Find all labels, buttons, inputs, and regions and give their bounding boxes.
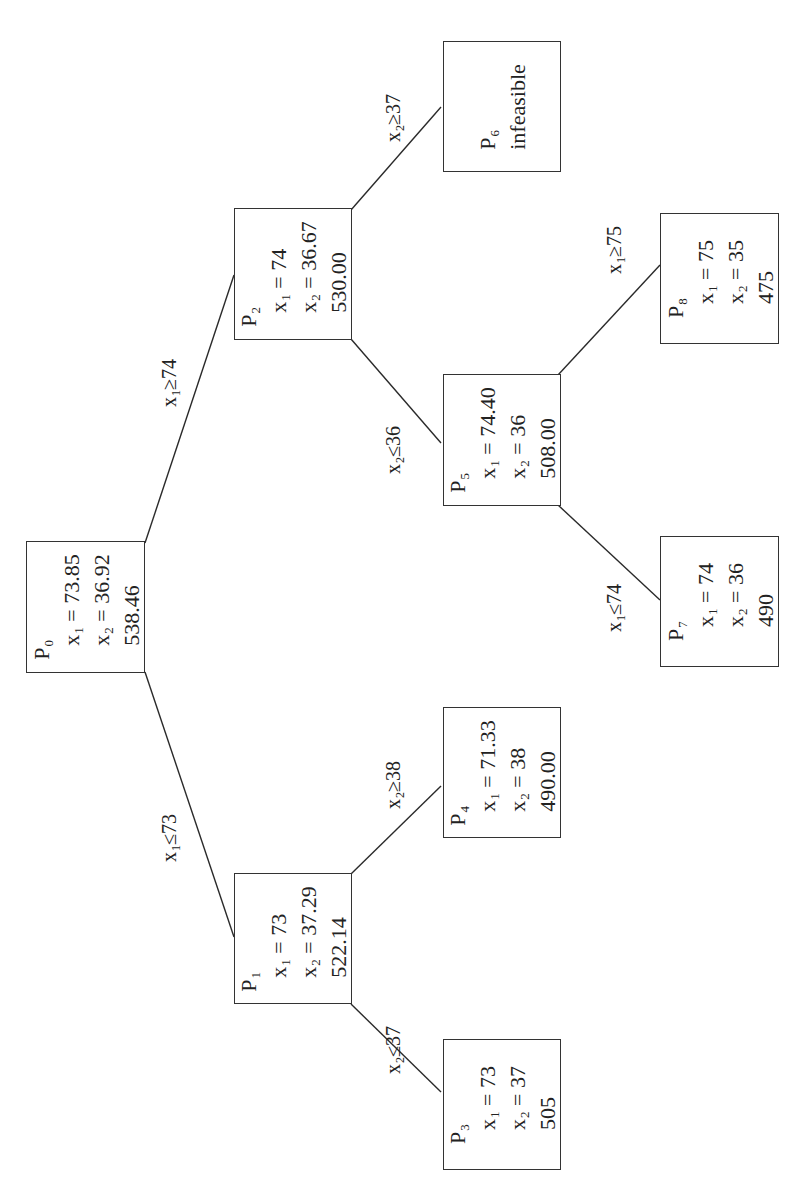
- p1-objective: 522.14: [327, 886, 350, 991]
- p1-x1: 73: [266, 913, 291, 935]
- node-p6: P6 infeasible: [443, 41, 561, 172]
- p6-status: infeasible: [506, 64, 529, 150]
- p0-objective: 538.46: [119, 554, 142, 659]
- node-p5: P5 x1 = 74.40 x2 = 36 508.00: [443, 374, 561, 506]
- edge-label-p0-p1: x1≤73: [158, 802, 182, 862]
- node-p1: P1 x1 = 73 x2 = 37.29 522.14: [234, 873, 352, 1004]
- edge-label-p2-p6: x2≥37: [382, 82, 406, 142]
- edge-label-p2-p5: x2≤36: [382, 414, 406, 474]
- edge-p0-p2: [145, 275, 234, 543]
- p5-objective: 508.00: [536, 387, 559, 492]
- node-p4: P4 x1 = 71.33 x2 = 38 490.00: [443, 707, 561, 838]
- node-p0: P0 x1 = 73.85 x2 = 36.92 538.46: [26, 541, 145, 673]
- p3-objective: 505: [536, 1066, 559, 1144]
- p8-x2: 35: [722, 240, 747, 262]
- p4-x2: 38: [505, 747, 530, 769]
- p2-x2: 36.67: [296, 221, 321, 271]
- p7-objective: 490: [753, 563, 776, 641]
- p4-x1: 71.33: [475, 720, 500, 770]
- edge-label-p1-p4: x2≥38: [382, 749, 406, 809]
- p0-x2: 36.92: [88, 554, 113, 604]
- edge-label-p1-p3: x2≤37: [382, 1014, 406, 1074]
- p1-x2: 37.29: [296, 886, 321, 936]
- node-p3: P3 x1 = 73 x2 = 37 505: [443, 1039, 561, 1170]
- edge-label-p5-p7: x1≤74: [603, 572, 627, 632]
- edge-p5-p8: [558, 265, 660, 375]
- p2-objective: 530.00: [327, 221, 350, 326]
- p2-x1: 74: [266, 249, 291, 271]
- node-p7: P7 x1 = 74 x2 = 36 490: [660, 536, 779, 667]
- p3-x1: 73: [475, 1066, 500, 1088]
- edge-label-p0-p2: x1≥74: [158, 347, 182, 407]
- p7-x2: 36: [722, 563, 747, 585]
- p5-x2: 36: [505, 415, 530, 437]
- node-p8: P8 x1 = 75 x2 = 35 475: [660, 213, 779, 344]
- p5-x1: 74.40: [475, 387, 500, 437]
- edge-label-p5-p8: x1≥75: [603, 214, 627, 274]
- node-p2: P2 x1 = 74 x2 = 36.67 530.00: [234, 208, 352, 340]
- p8-x1: 75: [692, 240, 717, 262]
- p4-objective: 490.00: [536, 720, 559, 825]
- p0-x1: 73.85: [58, 554, 83, 604]
- p8-objective: 475: [753, 240, 776, 318]
- p3-x2: 37: [505, 1066, 530, 1088]
- p7-x1: 74: [692, 563, 717, 585]
